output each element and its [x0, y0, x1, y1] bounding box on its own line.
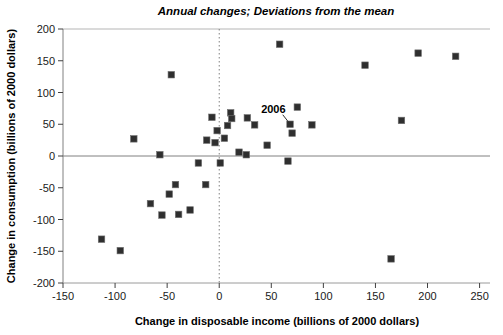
y-tick-label: -100 [33, 214, 55, 226]
data-point [276, 41, 283, 48]
data-point [187, 207, 194, 214]
data-point [147, 200, 154, 207]
y-tick-label: 0 [49, 150, 55, 162]
x-tick-label: 150 [366, 290, 384, 302]
chart-title: Annual changes; Deviations from the mean [157, 5, 394, 17]
y-tick-label: -50 [39, 182, 55, 194]
data-point [157, 151, 164, 158]
chart-layer: -150-100-50050100150200250200150100500-5… [33, 23, 490, 302]
x-tick-label: 100 [314, 290, 332, 302]
data-point [172, 181, 179, 188]
data-point [398, 117, 405, 124]
x-tick-label: 250 [470, 290, 488, 302]
data-point [203, 137, 210, 144]
data-point [214, 127, 221, 134]
data-point [309, 122, 316, 129]
data-point [168, 71, 175, 78]
data-point [209, 114, 216, 121]
data-point [285, 158, 292, 165]
scatter-plot-figure: -150-100-50050100150200250200150100500-5… [0, 0, 503, 335]
y-tick-label: 200 [37, 23, 55, 35]
annotation-leader-line [283, 115, 289, 122]
data-point [236, 149, 243, 156]
x-tick-label: 0 [216, 290, 222, 302]
y-tick-label: -200 [33, 277, 55, 289]
x-tick-label: -150 [52, 290, 74, 302]
data-point [202, 181, 209, 188]
x-tick-label: 50 [265, 290, 277, 302]
data-point [289, 130, 296, 137]
y-tick-label: 50 [43, 118, 55, 130]
y-tick-label: 100 [37, 87, 55, 99]
data-point [159, 212, 166, 219]
data-point [175, 211, 182, 218]
data-point [243, 151, 250, 158]
data-point [217, 160, 224, 167]
data-point [228, 115, 235, 122]
data-point [415, 50, 422, 57]
data-point [294, 104, 301, 111]
x-axis-label: Change in disposable income (billions of… [135, 315, 420, 327]
data-point [117, 247, 124, 254]
annotation-2006-label: 2006 [261, 103, 285, 115]
data-point [287, 121, 294, 128]
data-point [224, 122, 231, 128]
chart-canvas: -150-100-50050100150200250200150100500-5… [0, 0, 503, 335]
data-point [264, 142, 271, 149]
y-tick-label: 150 [37, 55, 55, 67]
data-point [362, 62, 369, 69]
data-point [131, 136, 138, 143]
data-point [195, 160, 202, 167]
data-point [221, 135, 228, 142]
x-tick-label: -100 [104, 290, 126, 302]
data-point [244, 115, 251, 122]
data-point [251, 122, 258, 129]
data-point [388, 256, 395, 263]
data-point [452, 53, 459, 60]
y-axis-label: Change in consumption (billions of 2000 … [5, 29, 17, 284]
data-point [98, 236, 105, 243]
data-point [166, 191, 173, 198]
x-tick-label: -50 [159, 290, 175, 302]
x-tick-label: 200 [418, 290, 436, 302]
y-tick-label: -150 [33, 245, 55, 257]
data-point [212, 139, 219, 146]
